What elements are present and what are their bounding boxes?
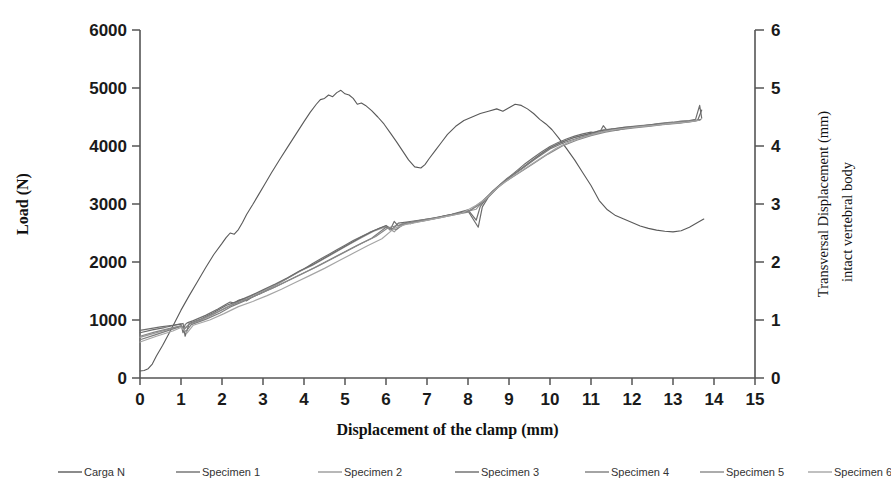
y-axis-left-tick-label: 1000 — [89, 311, 127, 330]
series-line-1 — [140, 105, 702, 332]
y-axis-left-tick-label: 4000 — [89, 137, 127, 156]
y-axis-left-tick-label: 5000 — [89, 79, 127, 98]
legend-label-2[interactable]: Specimen 2 — [344, 466, 402, 478]
chart-canvas: 0100020003000400050006000012345601234567… — [0, 0, 891, 504]
legend-label-1[interactable]: Specimen 1 — [202, 466, 260, 478]
series-line-5 — [140, 120, 700, 336]
x-axis-tick-label: 3 — [258, 390, 267, 409]
y-axis-right-tick-label: 0 — [771, 369, 780, 388]
y-axis-left-tick-label: 6000 — [89, 21, 127, 40]
legend-label-0[interactable]: Carga N — [84, 466, 125, 478]
y-axis-right-tick-label: 2 — [771, 253, 780, 272]
x-axis-tick-label: 5 — [340, 390, 349, 409]
legend-label-6[interactable]: Specimen 6 — [834, 466, 891, 478]
chart-figure: 0100020003000400050006000012345601234567… — [0, 0, 891, 504]
y-axis-left-tick-label: 0 — [118, 369, 127, 388]
y-axis-title-right-line2: intact vertebral body — [839, 161, 855, 282]
y-axis-right-tick-label: 6 — [771, 21, 780, 40]
x-axis-tick-label: 10 — [541, 390, 560, 409]
series-line-2 — [140, 120, 700, 338]
x-axis-tick-label: 15 — [746, 390, 765, 409]
x-axis-tick-label: 14 — [705, 390, 724, 409]
legend-label-3[interactable]: Specimen 3 — [481, 466, 539, 478]
y-axis-right-tick-label: 4 — [771, 137, 781, 156]
y-axis-right-tick-label: 1 — [771, 311, 780, 330]
legend-label-5[interactable]: Specimen 5 — [726, 466, 784, 478]
series-line-3 — [140, 110, 702, 336]
x-axis-tick-label: 2 — [217, 390, 226, 409]
legend-label-4[interactable]: Specimen 4 — [611, 466, 669, 478]
x-axis-tick-label: 4 — [299, 390, 309, 409]
x-axis-tick-label: 8 — [463, 390, 472, 409]
x-axis-tick-label: 7 — [422, 390, 431, 409]
x-axis-title: Displacement of the clamp (mm) — [336, 421, 558, 439]
x-axis-tick-label: 13 — [664, 390, 683, 409]
series-line-0 — [140, 90, 704, 371]
y-axis-left-tick-label: 3000 — [89, 195, 127, 214]
x-axis-tick-label: 11 — [582, 390, 600, 409]
x-axis-tick-label: 9 — [504, 390, 513, 409]
y-axis-title-right-line1: Transversal Displacement (mm) — [815, 111, 832, 297]
x-axis-tick-label: 0 — [135, 390, 144, 409]
y-axis-left-tick-label: 2000 — [89, 253, 127, 272]
x-axis-tick-label: 6 — [381, 390, 390, 409]
y-axis-title-left: Load (N) — [14, 173, 32, 235]
y-axis-right-tick-label: 3 — [771, 195, 780, 214]
x-axis-tick-label: 12 — [623, 390, 642, 409]
x-axis-tick-label: 1 — [176, 390, 185, 409]
y-axis-right-tick-label: 5 — [771, 79, 780, 98]
